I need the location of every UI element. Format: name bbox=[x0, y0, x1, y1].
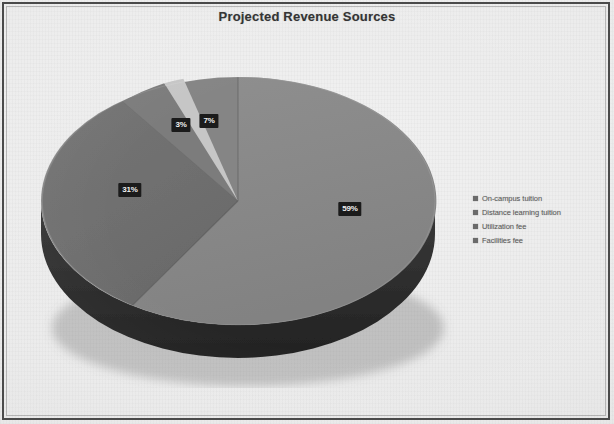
pie-body bbox=[41, 77, 436, 358]
chart-legend: On-campus tuition Distance learning tuit… bbox=[473, 191, 605, 247]
legend-label: On-campus tuition bbox=[482, 194, 542, 203]
legend-item-facilities-fee[interactable]: Facilities fee bbox=[473, 233, 605, 247]
pie-chart-svg bbox=[20, 28, 460, 388]
chart-title: Projected Revenue Sources bbox=[0, 9, 614, 24]
chart-screenshot: Projected Revenue Sources bbox=[0, 0, 614, 424]
legend-swatch-icon bbox=[473, 196, 478, 201]
slice-label-on-campus-tuition: 59% bbox=[338, 202, 361, 216]
slice-label-facilities-fee: 3% bbox=[171, 118, 190, 132]
legend-swatch-icon bbox=[473, 224, 478, 229]
slice-label-distance-learning-tuition: 31% bbox=[118, 183, 141, 197]
legend-item-utilization-fee[interactable]: Utilization fee bbox=[473, 219, 605, 233]
pie-chart-plot-area: 59% 31% 7% 3% bbox=[20, 28, 460, 388]
legend-swatch-icon bbox=[473, 238, 478, 243]
legend-swatch-icon bbox=[473, 210, 478, 215]
legend-label: Utilization fee bbox=[482, 222, 526, 231]
legend-label: Facilities fee bbox=[482, 236, 523, 245]
legend-item-distance-learning-tuition[interactable]: Distance learning tuition bbox=[473, 205, 605, 219]
legend-item-on-campus-tuition[interactable]: On-campus tuition bbox=[473, 191, 605, 205]
legend-label: Distance learning tuition bbox=[482, 208, 561, 217]
slice-label-utilization-fee: 7% bbox=[199, 114, 218, 128]
